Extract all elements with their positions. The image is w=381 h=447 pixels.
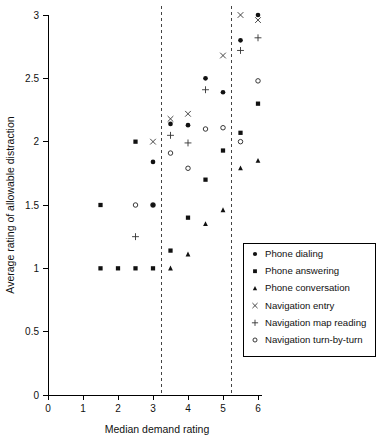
legend-item-3[interactable]: Navigation entry bbox=[252, 300, 334, 311]
data-point-open-circle bbox=[238, 139, 243, 144]
x-tick-label: 1 bbox=[80, 403, 86, 414]
data-point-filled-square bbox=[116, 266, 120, 270]
data-point-filled-circle bbox=[168, 122, 173, 127]
data-point-cross-x bbox=[185, 111, 191, 117]
data-point-plus bbox=[185, 139, 192, 146]
y-tick-label: 1.5 bbox=[25, 200, 39, 211]
data-point-filled-square bbox=[238, 131, 242, 135]
data-point-filled-square bbox=[151, 266, 155, 270]
x-tick-label: 5 bbox=[220, 403, 226, 414]
legend-item-label: Navigation map reading bbox=[265, 317, 366, 328]
data-point-filled-circle bbox=[221, 90, 226, 95]
data-point-open-circle bbox=[133, 203, 138, 208]
legend-item-label: Navigation entry bbox=[265, 300, 335, 311]
y-tick-label: 0 bbox=[33, 390, 39, 401]
legend-item-label: Phone dialing bbox=[265, 248, 323, 259]
y-tick-label: 1 bbox=[33, 263, 39, 274]
y-axis-title: Average rating of allowable distraction bbox=[4, 116, 16, 293]
data-point-filled-square bbox=[98, 266, 102, 270]
data-point-filled-square bbox=[168, 248, 172, 252]
x-tick-label: 2 bbox=[115, 403, 121, 414]
data-point-open-circle bbox=[186, 166, 191, 171]
x-axis-title: Median demand rating bbox=[105, 423, 210, 435]
legend-item-label: Navigation turn-by-turn bbox=[265, 334, 363, 345]
data-point-filled-triangle bbox=[186, 252, 191, 257]
data-point-open-circle bbox=[168, 151, 173, 156]
scatter-chart-figure: 0123456 00.511.522.53 Phone dialingPhone… bbox=[0, 0, 381, 447]
data-point-open-circle bbox=[203, 127, 208, 132]
data-point-filled-triangle bbox=[203, 221, 208, 226]
data-point-filled-circle bbox=[203, 76, 208, 81]
data-point-filled-square bbox=[98, 203, 102, 207]
chart-canvas: 0123456 00.511.522.53 Phone dialingPhone… bbox=[0, 0, 381, 447]
x-tick-label: 0 bbox=[45, 403, 51, 414]
y-tick-label: 2 bbox=[33, 136, 39, 147]
data-point-cross-x bbox=[150, 139, 156, 145]
data-point-cross-x bbox=[168, 116, 174, 122]
y-tick-label: 2.5 bbox=[25, 73, 39, 84]
legend-item-2[interactable]: Phone conversation bbox=[253, 282, 350, 293]
data-point-filled-square bbox=[133, 266, 137, 270]
data-point-cross-x bbox=[220, 53, 226, 59]
series-4 bbox=[132, 34, 261, 240]
x-tick-label: 6 bbox=[255, 403, 261, 414]
y-tick-label: 0.5 bbox=[25, 326, 39, 337]
data-point-filled-square bbox=[133, 140, 137, 144]
data-point-cross-x bbox=[255, 17, 261, 23]
data-point-filled-triangle bbox=[168, 266, 173, 271]
data-point-filled-square bbox=[186, 216, 190, 220]
series-1 bbox=[98, 102, 260, 271]
legend-marker-filled-square bbox=[253, 269, 257, 273]
x-tick-label: 4 bbox=[185, 403, 191, 414]
legend-item-4[interactable]: Navigation map reading bbox=[252, 317, 366, 328]
x-axis-tick-labels: 0123456 bbox=[45, 403, 261, 414]
data-point-filled-circle bbox=[238, 38, 243, 43]
legend-item-label: Phone answering bbox=[265, 265, 339, 276]
y-tick-label: 3 bbox=[33, 10, 39, 21]
data-point-filled-square bbox=[221, 148, 225, 152]
data-point-plus bbox=[237, 47, 244, 54]
data-point-plus bbox=[132, 233, 139, 240]
data-point-filled-circle bbox=[256, 13, 261, 18]
data-point-filled-square bbox=[256, 102, 260, 106]
data-point-filled-triangle bbox=[238, 165, 243, 170]
data-point-filled-square bbox=[203, 178, 207, 182]
data-point-filled-triangle bbox=[256, 158, 261, 163]
data-point-filled-triangle bbox=[221, 207, 226, 212]
data-point-filled-circle bbox=[151, 160, 156, 165]
data-point-filled-circle bbox=[186, 123, 191, 128]
data-point-plus bbox=[202, 86, 209, 93]
legend-item-label: Phone conversation bbox=[265, 282, 350, 293]
data-point-plus bbox=[255, 34, 262, 41]
data-points-group bbox=[98, 12, 261, 270]
axis-ticks-group bbox=[43, 15, 258, 400]
legend-item-1[interactable]: Phone answering bbox=[253, 265, 339, 276]
data-point-open-circle bbox=[256, 79, 261, 84]
data-point-open-circle bbox=[221, 125, 226, 130]
data-point-plus bbox=[167, 132, 174, 139]
reference-lines-group bbox=[162, 6, 232, 395]
x-tick-label: 3 bbox=[150, 403, 156, 414]
data-point-cross-x bbox=[238, 12, 244, 18]
chart-legend: Phone dialingPhone answeringPhone conver… bbox=[243, 243, 375, 356]
legend-marker-filled-circle bbox=[253, 252, 257, 256]
y-axis-tick-labels: 00.511.522.53 bbox=[25, 10, 39, 401]
legend-item-5[interactable]: Navigation turn-by-turn bbox=[253, 334, 363, 345]
